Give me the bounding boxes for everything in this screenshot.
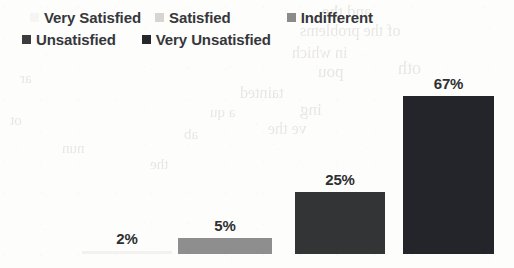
bar[interactable] [82,251,172,254]
legend-item-label: Unsatisfied [36,31,116,48]
legend-item-very-unsatisfied[interactable]: Very Unsatisfied [142,31,271,48]
legend-item-label: Indifferent [301,9,373,26]
legend-item-indifferent[interactable]: Indifferent [287,9,373,26]
bar-value-label: 2% [82,230,172,247]
bar-value-label: 67% [403,75,494,92]
bar[interactable] [295,192,385,254]
bar-value-label: 25% [295,171,385,188]
bar-chart-screenshot: and theof the problemsin whichothpoutain… [0,0,514,268]
legend-swatch-icon [30,13,39,22]
legend-item-label: Satisfied [169,9,231,26]
legend-row: Very SatisfiedSatisfiedIndifferent [0,6,514,28]
legend-swatch-icon [287,13,296,22]
bar-group: 67% [403,70,494,254]
legend-swatch-icon [22,35,31,44]
legend-item-label: Very Satisfied [44,9,141,26]
legend-item-unsatisfied[interactable]: Unsatisfied [22,31,116,48]
legend-item-satisfied[interactable]: Satisfied [155,9,231,26]
bar[interactable] [178,238,272,254]
bar-group: 2% [82,225,172,254]
bar-value-label: 5% [178,217,272,234]
legend-row: UnsatisfiedVery Unsatisfied [0,28,514,50]
bar-group: 25% [295,166,385,254]
legend-swatch-icon [155,13,164,22]
legend-item-very-satisfied[interactable]: Very Satisfied [30,9,141,26]
bar-group: 5% [178,212,272,254]
legend-swatch-icon [142,35,151,44]
chart-legend: Very SatisfiedSatisfiedIndifferentUnsati… [0,6,514,50]
bar[interactable] [403,96,494,254]
legend-item-label: Very Unsatisfied [156,31,271,48]
